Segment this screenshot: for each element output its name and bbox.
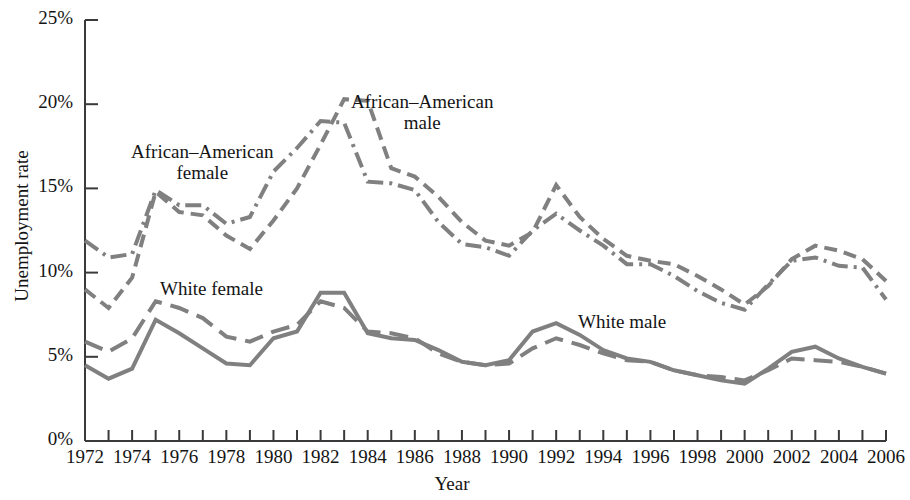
x-tick-label: 2006 <box>858 446 910 468</box>
y-tick-label: 5% <box>0 344 73 366</box>
series-label-line-2: female <box>131 162 273 183</box>
y-tick-label: 25% <box>0 7 73 29</box>
series-line-white-male <box>85 293 886 384</box>
axis-lines <box>85 20 886 441</box>
series-label-african-american-male: African–American male <box>351 91 493 134</box>
x-axis-title: Year <box>0 473 904 495</box>
x-axis-ticks <box>85 430 886 441</box>
series-label-african-american-female: African–American female <box>131 141 273 184</box>
series-label-line-1: African–American <box>131 141 273 162</box>
y-axis-title: Unemployment rate <box>11 146 33 306</box>
y-tick-label: 20% <box>0 91 73 113</box>
series-label-line-2: male <box>351 112 493 133</box>
series-label-white-male: White male <box>578 311 666 332</box>
series-label-white-female: White female <box>160 278 263 299</box>
y-axis-ticks <box>85 20 98 441</box>
series-label-line-1: African–American <box>351 91 493 112</box>
